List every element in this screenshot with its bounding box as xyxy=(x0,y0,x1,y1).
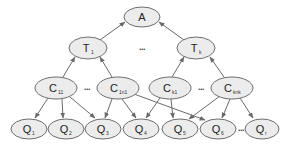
node-c1n1-label: C xyxy=(110,82,118,94)
node-ck1: C k1 xyxy=(149,77,191,99)
edges xyxy=(35,22,253,120)
edge-cknk-tk xyxy=(210,57,224,77)
node-q4-sub: 4 xyxy=(144,130,147,136)
node-q2-sub: 2 xyxy=(69,130,72,136)
edge-c11-q1 xyxy=(35,98,48,118)
node-cknk-label: C xyxy=(224,82,232,94)
node-q6: Q 6 xyxy=(200,119,236,139)
node-q6-label: Q xyxy=(212,123,221,135)
node-ck1-sub: k1 xyxy=(172,89,178,95)
edge-c11-t1 xyxy=(63,57,75,77)
hierarchy-diagram: A T 1 ... T k C 11 ... C 1n1 C k1 ... C … xyxy=(0,0,281,148)
node-q1: Q 1 xyxy=(11,119,47,139)
node-q5-label: Q xyxy=(174,123,183,135)
c-left-ellipsis: ... xyxy=(84,82,90,92)
node-t1-sub: 1 xyxy=(91,49,94,55)
node-cknk: C knk xyxy=(211,77,253,99)
node-qr-label: Q xyxy=(256,123,265,135)
node-q3-label: Q xyxy=(97,123,106,135)
edge-c1n1-t1 xyxy=(100,57,112,77)
node-c11: C 11 xyxy=(35,77,77,99)
edge-cknk-q5 xyxy=(189,96,220,119)
node-c1n1: C 1n1 xyxy=(97,77,139,99)
edge-cknk-q6 xyxy=(222,99,230,118)
node-tk: T k xyxy=(177,37,215,59)
t-level-ellipsis: ... xyxy=(139,42,145,52)
node-q2: Q 2 xyxy=(48,119,84,139)
node-qr: Q r xyxy=(245,119,279,139)
q-level-ellipsis: ... xyxy=(238,123,244,133)
node-q4: Q 4 xyxy=(123,119,159,139)
node-c11-label: C xyxy=(49,82,57,94)
node-q1-label: Q xyxy=(23,123,32,135)
node-ck1-label: C xyxy=(163,82,171,94)
c-right-ellipsis: ... xyxy=(198,82,204,92)
node-q5-sub: 5 xyxy=(183,130,186,136)
node-q3: Q 3 xyxy=(85,119,121,139)
node-q3-sub: 3 xyxy=(106,130,109,136)
node-cknk-sub: knk xyxy=(233,89,241,95)
node-q1-sub: 1 xyxy=(32,130,35,136)
edge-tk-a xyxy=(159,22,184,40)
edge-c11-q2 xyxy=(62,99,63,118)
node-t1-label: T xyxy=(83,42,90,54)
node-c11-sub: 11 xyxy=(58,89,63,95)
node-c1n1-sub: 1n1 xyxy=(119,89,128,95)
edge-cknk-qr xyxy=(240,98,253,118)
node-t1: T 1 xyxy=(69,37,107,59)
node-a: A xyxy=(124,7,160,27)
edge-ck1-tk xyxy=(172,57,184,77)
node-q5: Q 5 xyxy=(162,119,198,139)
node-q6-sub: 6 xyxy=(221,130,224,136)
edge-c1n1-q3 xyxy=(105,99,112,118)
node-tk-label: T xyxy=(191,42,198,54)
edge-c11-q3 xyxy=(70,97,95,118)
node-a-label: A xyxy=(138,11,146,23)
edge-c1n1-q4 xyxy=(122,99,136,118)
edge-t1-a xyxy=(100,22,125,40)
node-q2-label: Q xyxy=(60,123,69,135)
node-q4-label: Q xyxy=(135,123,144,135)
